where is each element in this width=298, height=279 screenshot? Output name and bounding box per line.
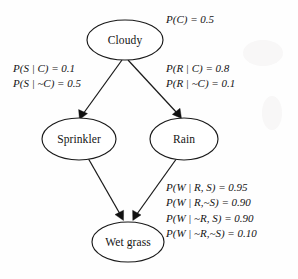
cpt-wetgrass-line-4: P(W | ~R,~S) = 0.10 — [166, 226, 257, 241]
node-label-cloudy: Cloudy — [108, 34, 142, 46]
cpt-sprinkler-line-1: P(S | C) = 0.1 — [13, 61, 81, 76]
cpt-sprinkler-line-2: P(S | ~C) = 0.5 — [13, 76, 81, 91]
edge-sprinkler-to-wetgrass — [88, 158, 124, 221]
node-label-sprinkler: Sprinkler — [57, 133, 101, 145]
cpt-wetgrass: P(W | R, S) = 0.95 P(W | R,~S) = 0.90 P(… — [166, 180, 257, 242]
cpt-wetgrass-line-1: P(W | R, S) = 0.95 — [166, 180, 257, 195]
cpt-rain-line-2: P(R | ~C) = 0.1 — [166, 76, 235, 91]
cpt-cloudy: P(C) = 0.5 — [166, 12, 214, 27]
node-label-wetgrass: Wet grass — [105, 236, 151, 248]
cpt-sprinkler: P(S | C) = 0.1 P(S | ~C) = 0.5 — [13, 61, 81, 92]
cpt-wetgrass-line-2: P(W | R,~S) = 0.90 — [166, 195, 257, 210]
cpt-rain: P(R | C) = 0.8 P(R | ~C) = 0.1 — [166, 61, 235, 92]
cpt-wetgrass-line-3: P(W | ~R, S) = 0.90 — [166, 211, 257, 226]
cpt-cloudy-line-1: P(C) = 0.5 — [166, 12, 214, 27]
cpt-rain-line-1: P(R | C) = 0.8 — [166, 61, 235, 76]
bayesian-network-diagram: Cloudy Sprinkler Rain Wet grass P(C) = 0… — [0, 0, 298, 279]
edge-cloudy-to-sprinkler — [79, 60, 122, 120]
node-label-rain: Rain — [173, 133, 195, 145]
